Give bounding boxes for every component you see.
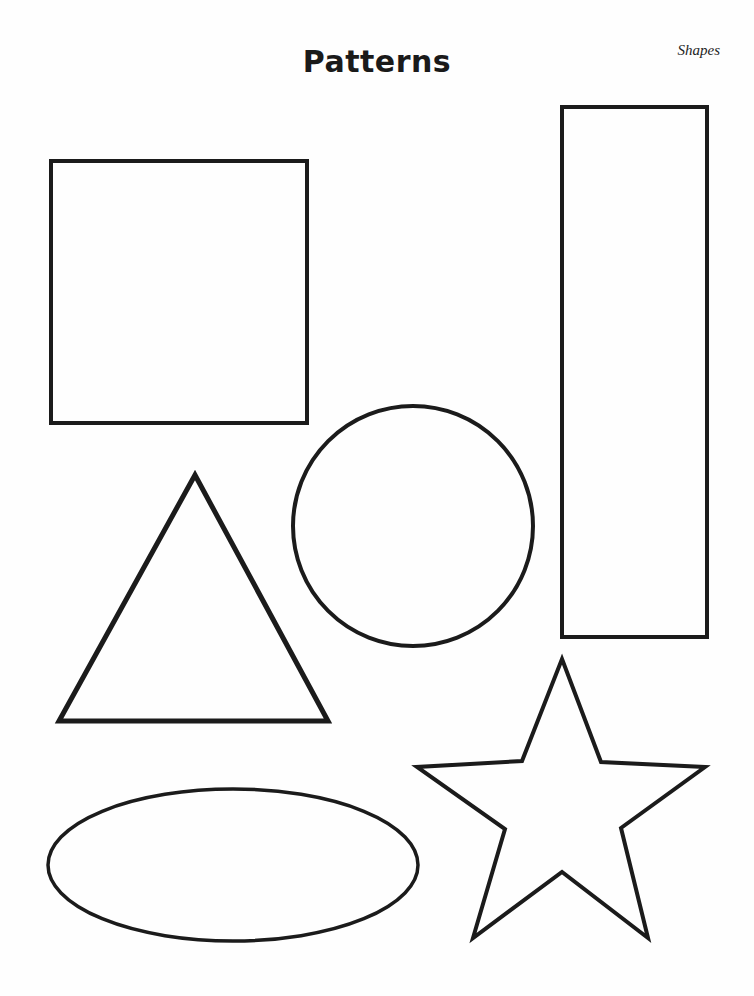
shape-circle xyxy=(293,406,533,646)
shape-rectangle xyxy=(562,107,707,637)
shape-triangle xyxy=(59,475,328,721)
worksheet-page: Patterns Shapes xyxy=(0,0,754,996)
shape-canvas xyxy=(0,0,754,996)
shapes-drawing xyxy=(0,0,754,996)
shape-star xyxy=(417,659,705,938)
shape-square xyxy=(51,161,307,423)
shape-ellipse xyxy=(48,789,418,941)
